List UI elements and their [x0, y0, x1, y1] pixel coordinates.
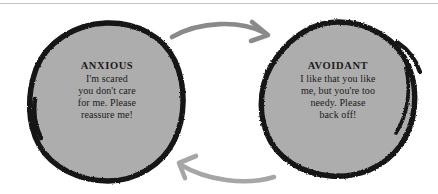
- top-arrow-shaft: [172, 24, 265, 37]
- node-anxious-text: ANXIOUS I'm scared you don't care for me…: [44, 60, 170, 121]
- node-avoidant-body-line: me, but you're too: [268, 85, 408, 97]
- node-anxious-body-line: reassure me!: [44, 109, 170, 121]
- node-avoidant-body-line: back off!: [268, 109, 408, 121]
- bottom-arrow-shaft: [181, 165, 274, 181]
- node-anxious-title: ANXIOUS: [44, 60, 170, 72]
- diagram-canvas: ANXIOUS I'm scared you don't care for me…: [0, 0, 438, 194]
- node-anxious-body-line: I'm scared: [44, 73, 170, 85]
- node-anxious-body-line: you don't care: [44, 85, 170, 97]
- node-avoidant-body-line: I like that you like: [268, 73, 408, 85]
- node-avoidant-body: I like that you like me, but you're too …: [268, 73, 408, 120]
- node-anxious-body: I'm scared you don't care for me. Please…: [44, 73, 170, 120]
- top-arrow: [172, 22, 268, 41]
- node-avoidant-title: AVOIDANT: [268, 60, 408, 72]
- node-anxious-body-line: for me. Please: [44, 97, 170, 109]
- bottom-arrow: [179, 156, 274, 181]
- node-avoidant-text: AVOIDANT I like that you like me, but yo…: [268, 60, 408, 121]
- node-avoidant-body-line: needy. Please: [268, 97, 408, 109]
